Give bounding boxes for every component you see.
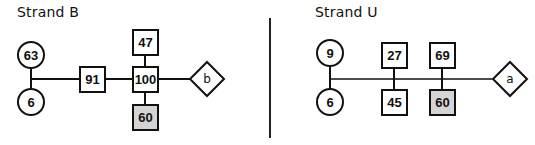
- strand-b-circle-node: 6: [18, 89, 44, 115]
- strand-b-box-node: 91: [80, 67, 105, 92]
- strand-u-box-node: 69: [430, 43, 455, 68]
- svg-text:6: 6: [326, 95, 333, 110]
- svg-text:47: 47: [138, 35, 152, 50]
- svg-text:6: 6: [27, 95, 34, 110]
- svg-text:63: 63: [24, 48, 38, 63]
- svg-text:60: 60: [435, 95, 449, 110]
- svg-text:9: 9: [326, 46, 333, 61]
- strand-b-diamond-terminal: b: [190, 62, 224, 96]
- strand-u-circle-node: 9: [317, 40, 343, 66]
- svg-text:a: a: [506, 72, 513, 86]
- strand-u-box-node-highlighted: 60: [430, 90, 455, 115]
- strand-u-box-node: 27: [382, 43, 407, 68]
- strand-b-circle-node: 63: [18, 42, 44, 68]
- svg-text:45: 45: [387, 95, 401, 110]
- strand-b-box-node-highlighted: 60: [133, 105, 158, 130]
- svg-text:69: 69: [435, 48, 449, 63]
- strand-b-box-node: 100: [133, 67, 158, 92]
- svg-text:b: b: [203, 72, 211, 86]
- svg-text:60: 60: [138, 110, 152, 125]
- strand-u-diamond-terminal: a: [493, 62, 527, 96]
- strand-u-circle-node: 6: [317, 89, 343, 115]
- svg-text:91: 91: [85, 72, 99, 87]
- svg-text:27: 27: [387, 48, 401, 63]
- svg-text:100: 100: [135, 72, 157, 87]
- strand-diagram: 63 6 91 47 100 60 b 9 6 27 45 6: [0, 0, 535, 145]
- strand-u-box-node: 45: [382, 90, 407, 115]
- strand-b-box-node: 47: [133, 30, 158, 55]
